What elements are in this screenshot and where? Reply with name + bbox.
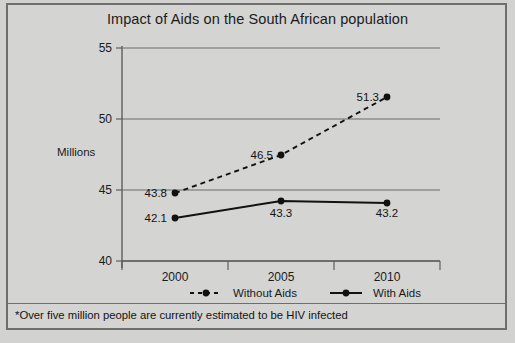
footnote-box: *Over five million people are currently … bbox=[8, 303, 505, 326]
x-tick-label-2005: 2005 bbox=[268, 270, 295, 284]
series-with-aids: 42.1 43.3 43.2 bbox=[145, 198, 399, 224]
y-tick-label-55: 55 bbox=[99, 41, 113, 55]
data-label-without-aids-2005: 46.5 bbox=[251, 149, 273, 161]
data-label-with-aids-2000: 42.1 bbox=[145, 212, 167, 224]
legend-label-with-aids: With Aids bbox=[373, 287, 421, 299]
chart-figure: Impact of Aids on the South African popu… bbox=[0, 0, 515, 343]
y-tick-label-40: 40 bbox=[99, 254, 113, 268]
legend-label-without-aids: Without Aids bbox=[233, 287, 297, 299]
data-label-with-aids-2010: 43.2 bbox=[376, 207, 398, 219]
x-tick-label-2000: 2000 bbox=[162, 270, 189, 284]
line-chart-plot: 55 50 45 40 Millions 2000 2005 2010 43.8… bbox=[0, 0, 515, 300]
series-without-aids: 43.8 46.5 51.3 bbox=[145, 91, 391, 199]
data-label-without-aids-2000: 43.8 bbox=[145, 187, 167, 199]
series-without-aids-line bbox=[175, 97, 387, 193]
data-point-with-aids-2005 bbox=[278, 198, 285, 205]
footnote-text: *Over five million people are currently … bbox=[15, 309, 348, 321]
chart-legend: Without Aids With Aids bbox=[190, 287, 421, 299]
legend-item-without-aids[interactable]: Without Aids bbox=[190, 287, 297, 299]
x-tick-marks bbox=[122, 261, 440, 270]
data-label-with-aids-2005: 43.3 bbox=[270, 207, 292, 219]
data-label-without-aids-2010: 51.3 bbox=[357, 91, 379, 103]
legend-item-with-aids[interactable]: With Aids bbox=[330, 287, 421, 299]
data-point-without-aids-2005 bbox=[278, 152, 285, 159]
data-point-with-aids-2010 bbox=[384, 200, 391, 207]
data-point-without-aids-2010 bbox=[384, 94, 391, 101]
y-axis-label: Millions bbox=[57, 146, 96, 158]
y-tick-label-45: 45 bbox=[99, 183, 113, 197]
legend-marker-icon-without-aids bbox=[203, 290, 210, 297]
x-tick-label-2010: 2010 bbox=[374, 270, 401, 284]
y-tick-label-50: 50 bbox=[99, 112, 113, 126]
y-tick-marks bbox=[116, 48, 122, 261]
legend-marker-icon-with-aids bbox=[343, 290, 350, 297]
data-point-with-aids-2000 bbox=[172, 215, 179, 222]
data-point-without-aids-2000 bbox=[172, 190, 179, 197]
